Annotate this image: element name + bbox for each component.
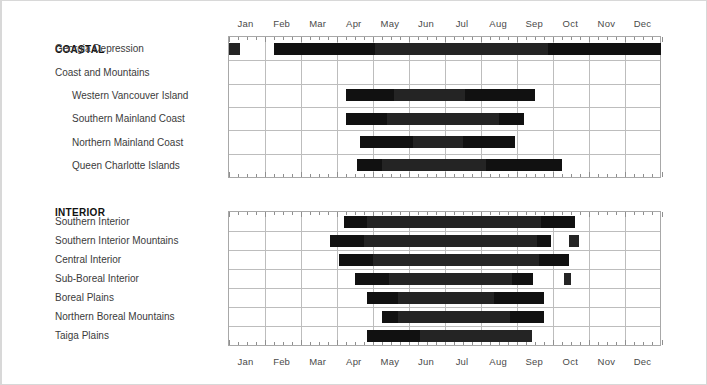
axis-tick bbox=[310, 174, 311, 177]
axis-tick bbox=[427, 342, 428, 345]
axis-tick bbox=[589, 340, 590, 345]
month-tick-label-apr: Apr bbox=[336, 18, 372, 29]
row-label: Southern Interior Mountains bbox=[55, 235, 178, 246]
timeline-bar-segment bbox=[539, 254, 570, 266]
axis-tick bbox=[616, 174, 617, 177]
axis-tick bbox=[571, 342, 572, 345]
axis-tick bbox=[364, 174, 365, 177]
row-label: Southern Interior bbox=[55, 216, 130, 227]
axis-tick bbox=[355, 342, 356, 345]
timeline-bar bbox=[346, 89, 535, 101]
month-tick-label-mar: Mar bbox=[300, 18, 336, 29]
axis-tick bbox=[247, 342, 248, 345]
axis-tick bbox=[544, 37, 545, 40]
axis-tick bbox=[607, 37, 608, 40]
gridline-horizontal bbox=[229, 269, 660, 270]
timeline-bar-segment bbox=[367, 330, 419, 342]
axis-tick bbox=[454, 37, 455, 40]
axis-tick bbox=[319, 37, 320, 40]
axis-tick bbox=[238, 212, 239, 215]
row-label: Coast and Mountains bbox=[55, 67, 150, 78]
gridline-horizontal bbox=[229, 107, 660, 108]
axis-tick bbox=[481, 37, 482, 42]
axis-tick bbox=[544, 342, 545, 345]
timeline-bar bbox=[564, 273, 571, 285]
row-label: Georgia Depression bbox=[55, 43, 144, 54]
axis-tick bbox=[499, 174, 500, 177]
axis-tick bbox=[634, 37, 635, 40]
month-tick-label-dec: Dec bbox=[624, 356, 660, 367]
axis-tick bbox=[229, 37, 230, 42]
gridline-horizontal bbox=[229, 288, 660, 289]
axis-tick bbox=[391, 37, 392, 40]
axis-tick bbox=[463, 174, 464, 177]
axis-tick bbox=[662, 37, 663, 42]
gridline-horizontal bbox=[229, 307, 660, 308]
panel-coastal bbox=[228, 36, 661, 178]
axis-tick bbox=[625, 172, 626, 177]
axis-tick bbox=[526, 37, 527, 40]
axis-tick bbox=[229, 172, 230, 177]
axis-tick bbox=[418, 174, 419, 177]
axis-tick bbox=[562, 37, 563, 40]
axis-tick bbox=[445, 37, 446, 42]
timeline-bar-segment bbox=[330, 235, 364, 247]
axis-tick bbox=[544, 174, 545, 177]
axis-ticks-bottom bbox=[229, 172, 660, 177]
timeline-bar-segment bbox=[367, 292, 398, 304]
axis-tick bbox=[662, 340, 663, 345]
axis-tick bbox=[364, 37, 365, 40]
month-tick-label-aug: Aug bbox=[480, 18, 516, 29]
timeline-bar bbox=[569, 235, 578, 247]
timeline-bar bbox=[346, 113, 525, 125]
axis-tick bbox=[508, 342, 509, 345]
month-tick-label-mar: Mar bbox=[300, 356, 336, 367]
month-tick-label-nov: Nov bbox=[588, 18, 624, 29]
axis-tick bbox=[292, 174, 293, 177]
axis-tick bbox=[553, 340, 554, 345]
axis-tick bbox=[643, 37, 644, 40]
axis-tick bbox=[445, 172, 446, 177]
panel-interior bbox=[228, 211, 661, 346]
timeline-bar bbox=[229, 43, 241, 55]
axis-tick bbox=[265, 340, 266, 345]
timeline-bar bbox=[357, 159, 563, 171]
month-tick-label-oct: Oct bbox=[552, 356, 588, 367]
row-label: Sub-Boreal Interior bbox=[55, 273, 139, 284]
axis-tick bbox=[625, 37, 626, 42]
axis-tick bbox=[508, 174, 509, 177]
axis-tick bbox=[436, 174, 437, 177]
timeline-bar-segment bbox=[339, 254, 373, 266]
timeline-bar bbox=[367, 292, 544, 304]
axis-tick bbox=[472, 174, 473, 177]
axis-tick bbox=[616, 37, 617, 40]
timeline-bar-segment bbox=[541, 216, 575, 228]
axis-tick bbox=[481, 172, 482, 177]
axis-tick bbox=[580, 174, 581, 177]
axis-tick bbox=[454, 342, 455, 345]
axis-tick bbox=[247, 212, 248, 215]
axis-tick bbox=[229, 340, 230, 345]
month-tick-label-may: May bbox=[372, 18, 408, 29]
timeline-bar bbox=[355, 273, 534, 285]
axis-tick bbox=[238, 342, 239, 345]
axis-tick bbox=[274, 37, 275, 40]
axis-tick bbox=[643, 174, 644, 177]
axis-tick bbox=[436, 342, 437, 345]
axis-tick bbox=[517, 172, 518, 177]
axis-tick bbox=[508, 37, 509, 40]
timeline-bar-segment bbox=[494, 292, 545, 304]
axis-tick bbox=[382, 342, 383, 345]
row-label: Queen Charlotte Islands bbox=[72, 160, 180, 171]
axis-tick bbox=[652, 174, 653, 177]
axis-tick bbox=[409, 37, 410, 42]
month-tick-label-jun: Jun bbox=[408, 356, 444, 367]
month-tick-label-jan: Jan bbox=[228, 18, 264, 29]
gridline-horizontal bbox=[229, 84, 660, 85]
axis-tick bbox=[598, 212, 599, 215]
gridline-horizontal bbox=[229, 250, 660, 251]
axis-tick bbox=[418, 342, 419, 345]
axis-tick bbox=[652, 342, 653, 345]
axis-tick bbox=[490, 37, 491, 40]
timeline-bar bbox=[344, 216, 575, 228]
